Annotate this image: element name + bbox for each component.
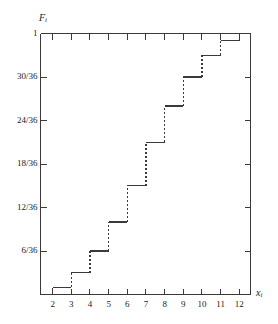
y-tick-label-24-36: 24/36 (17, 116, 38, 125)
plot-svg (0, 0, 278, 324)
y-tick-label-30-36: 30/36 (17, 72, 38, 81)
cdf-step-chart: Fi xi 130/3624/3618/3612/366/36 23456789… (0, 0, 278, 324)
chart-background (0, 0, 278, 324)
x-tick-label-12: 12 (227, 300, 251, 309)
x-axis-label: xi (256, 288, 262, 299)
y-axis-label-subscript: i (45, 16, 47, 24)
y-tick-label-6-36: 6/36 (21, 246, 37, 255)
y-tick-label-18-36: 18/36 (17, 159, 38, 168)
y-tick-label-12-36: 12/36 (17, 203, 38, 212)
x-axis-label-subscript: i (260, 291, 262, 299)
y-tick-label-1: 1 (33, 29, 38, 38)
y-axis-label: Fi (39, 13, 47, 24)
